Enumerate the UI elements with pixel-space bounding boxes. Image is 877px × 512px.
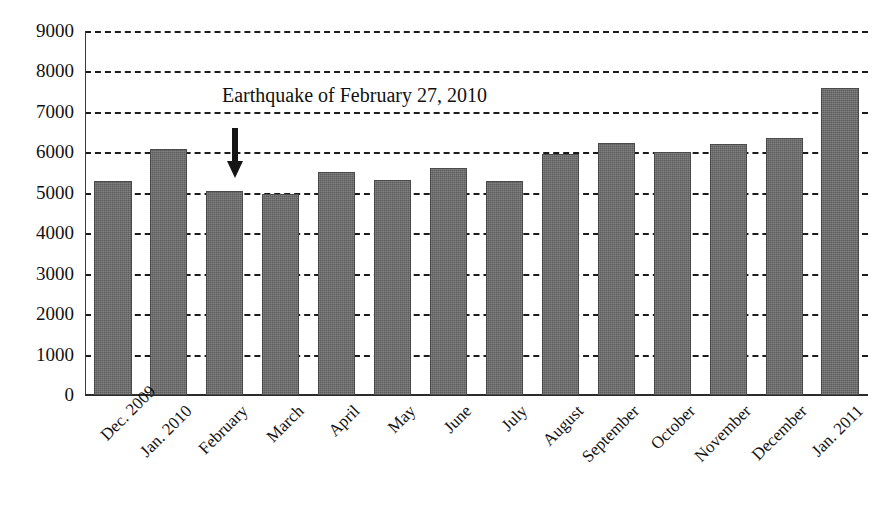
y-axis: 9000800070006000500040003000200010000 [0,0,74,512]
bar [318,172,355,395]
bar [766,138,803,395]
bar [430,168,467,395]
bar [542,154,579,395]
down-arrow-icon [227,128,243,178]
bar [821,88,858,395]
y-tick-label: 5000 [4,183,74,202]
bar [94,181,131,395]
bar [598,143,635,395]
bar [486,181,523,395]
bar [374,180,411,395]
y-tick-label: 6000 [4,142,74,161]
annotation-label: Earthquake of February 27, 2010 [222,84,487,106]
y-tick-label: 8000 [4,61,74,80]
bar-chart: 9000800070006000500040003000200010000 De… [0,0,877,512]
x-axis: Dec. 2009Jan. 2010FebruaryMarchAprilMayJ… [85,396,868,512]
x-tick-label: Dec. 2009 [97,402,139,444]
bar [206,191,243,395]
bar [150,149,187,395]
y-tick-label: 1000 [4,345,74,364]
bar [654,152,691,395]
y-tick-label: 3000 [4,264,74,283]
y-tick-label: 9000 [4,21,74,40]
y-tick-label: 2000 [4,304,74,323]
bar [262,194,299,395]
y-tick-label: 7000 [4,102,74,121]
y-tick-label: 4000 [4,223,74,242]
bar [710,144,747,395]
y-tick-label: 0 [4,385,74,404]
